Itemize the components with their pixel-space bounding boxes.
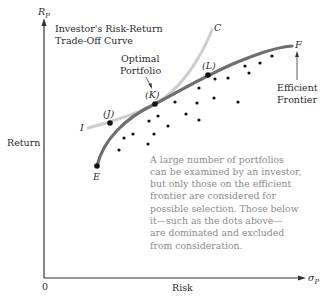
svg-text:it—such as the dots above—: it—such as the dots above— [150,215,283,226]
title-line-1: Investor's Risk-Return [55,23,163,34]
point-e [94,163,100,169]
curve-c-label: C [214,22,222,33]
point-k-label: (K) [145,89,160,100]
point-l [205,72,211,78]
point-k [152,101,158,107]
point-f-label: F [294,39,302,50]
x-axis-arrow-icon [298,276,306,281]
frontier-pointer-arrow-icon [295,51,299,57]
origin-label: 0 [42,281,48,292]
explanatory-note: A large number of portfolios can be exam… [149,154,301,251]
point-l-label: (L) [202,60,216,71]
frontier-label-line-1: Efficient [277,82,318,93]
svg-text:can be examined by an investor: can be examined by an investor, [150,166,301,177]
risk-return-diagram: RP σP 0 Risk Return Investor's Risk-Retu… [0,0,333,301]
y-axis-symbol: RP [37,6,50,20]
optimal-label-line-1: Optimal [121,53,159,64]
point-j-label: (J) [103,108,115,119]
point-j [107,120,113,126]
y-axis-label: Return [7,137,40,148]
optimal-label-line-2: Portfolio [120,65,161,76]
curve-i-label: I [79,122,84,133]
svg-text:frontier are considered for: frontier are considered for [150,190,276,201]
x-axis-symbol: σP [308,272,320,286]
svg-text:A large number of portfolios: A large number of portfolios [149,154,284,165]
point-e-label: E [92,171,100,182]
x-axis-label: Risk [172,282,193,293]
svg-text:but only those on the efficien: but only those on the efficient [150,178,291,189]
svg-text:are dominated and excluded: are dominated and excluded [150,227,284,238]
svg-text:from consideration.: from consideration. [150,240,243,251]
frontier-label-line-2: Frontier [277,94,317,105]
title-line-2: Trade-Off Curve [55,35,133,46]
svg-text:possible selection. Those belo: possible selection. Those below [150,203,299,214]
